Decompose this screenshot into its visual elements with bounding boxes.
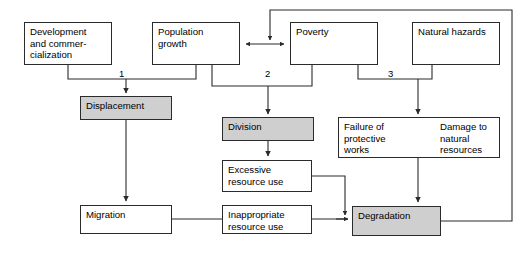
node-poverty[interactable]: Poverty xyxy=(290,22,378,65)
node-degradation[interactable]: Degradation xyxy=(352,206,441,236)
wire-poverty-to-join2 xyxy=(268,65,312,86)
node-division[interactable]: Division xyxy=(222,117,314,141)
node-natural-hazards[interactable]: Natural hazards xyxy=(412,22,500,65)
wire-hazards-to-join3 xyxy=(418,65,432,79)
wire-population-to-join1 xyxy=(126,65,196,79)
node-excessive-resource-use[interactable]: Excessive resource use xyxy=(222,160,312,192)
node-inappropriate-resource-use[interactable]: Inappropriate resource use xyxy=(222,205,312,234)
branch-label-2: 2 xyxy=(265,69,270,79)
node-failure-protective-works: Failure of protective works xyxy=(344,121,386,156)
branch-label-1: 1 xyxy=(119,69,124,79)
node-development-commercialization[interactable]: Development and commer- cialization xyxy=(24,22,112,65)
node-population-growth[interactable]: Population growth xyxy=(152,22,240,65)
node-damage-natural-resources: Damage to natural resources xyxy=(440,121,487,156)
diagram-canvas: Development and commer- cialization Popu… xyxy=(0,0,531,254)
node-migration[interactable]: Migration xyxy=(80,205,172,234)
wire-development-to-join1 xyxy=(68,65,126,79)
wire-excessive-to-merge xyxy=(312,176,345,215)
node-displacement[interactable]: Displacement xyxy=(80,96,172,120)
branch-label-3: 3 xyxy=(388,69,393,79)
node-failure-damage-pair[interactable]: Failure of protective works Damage to na… xyxy=(338,117,500,158)
wire-population-to-join2 xyxy=(212,65,268,86)
